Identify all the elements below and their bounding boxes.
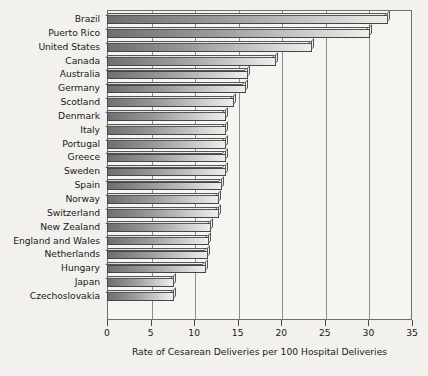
bar — [107, 209, 219, 218]
bar — [107, 140, 226, 149]
x-tick-mark — [281, 320, 282, 326]
bar — [107, 71, 248, 80]
bar-row — [107, 261, 412, 275]
x-tick-mark — [194, 320, 195, 326]
bar-row — [107, 178, 412, 192]
bar — [107, 15, 388, 24]
x-tick-label: 35 — [406, 327, 418, 338]
category-label: Canada — [0, 54, 104, 68]
x-tick-mark — [412, 320, 413, 326]
x-axis-title: Rate of Cesarean Deliveries per 100 Hosp… — [107, 346, 412, 357]
bar-row — [107, 40, 412, 54]
bar — [107, 182, 222, 191]
category-label: Switzerland — [0, 206, 104, 220]
x-tick-label: 10 — [188, 327, 200, 338]
bar — [107, 43, 312, 52]
bar-row — [107, 81, 412, 95]
x-tick-mark — [325, 320, 326, 326]
category-label: Australia — [0, 67, 104, 81]
x-tick-label: 30 — [363, 327, 375, 338]
x-tick-mark — [368, 320, 369, 326]
bar-row — [107, 137, 412, 151]
category-label: Netherlands — [0, 247, 104, 261]
category-label: Puerto Rico — [0, 26, 104, 40]
bar-row — [107, 275, 412, 289]
bar-row — [107, 192, 412, 206]
x-tick-label: 25 — [319, 327, 331, 338]
bar — [107, 265, 206, 274]
bar — [107, 168, 226, 177]
bar — [107, 112, 226, 121]
category-label: Portugal — [0, 137, 104, 151]
category-label: Italy — [0, 123, 104, 137]
bar-series — [107, 12, 412, 320]
bar — [107, 251, 208, 260]
category-axis-labels: BrazilPuerto RicoUnited StatesCanadaAust… — [0, 12, 104, 303]
category-label: Denmark — [0, 109, 104, 123]
category-label: Greece — [0, 150, 104, 164]
bar-row — [107, 26, 412, 40]
bar-row — [107, 67, 412, 81]
category-label: New Zealand — [0, 220, 104, 234]
bar-row — [107, 234, 412, 248]
x-tick-mark — [107, 320, 108, 326]
x-tick-label: 5 — [148, 327, 154, 338]
bar — [107, 237, 209, 246]
category-label: Sweden — [0, 164, 104, 178]
bar-row — [107, 289, 412, 303]
category-label: Germany — [0, 81, 104, 95]
bar-row — [107, 12, 412, 26]
category-label: Czechoslovakia — [0, 289, 104, 303]
x-tick-mark — [238, 320, 239, 326]
x-tick-mark — [151, 320, 152, 326]
category-label: England and Wales — [0, 234, 104, 248]
chart-figure: BrazilPuerto RicoUnited StatesCanadaAust… — [0, 0, 428, 376]
bar — [107, 126, 226, 135]
bar-row — [107, 109, 412, 123]
bar-row — [107, 206, 412, 220]
category-label: Japan — [0, 275, 104, 289]
x-tick-label: 0 — [104, 327, 110, 338]
bar-row — [107, 95, 412, 109]
bar — [107, 85, 246, 94]
x-tick-label: 15 — [232, 327, 244, 338]
category-label: Scotland — [0, 95, 104, 109]
category-label: United States — [0, 40, 104, 54]
bar — [107, 195, 219, 204]
bar-row — [107, 150, 412, 164]
bar — [107, 98, 234, 107]
bar-row — [107, 220, 412, 234]
bar-row — [107, 123, 412, 137]
bar — [107, 292, 174, 301]
bar — [107, 223, 211, 232]
category-label: Norway — [0, 192, 104, 206]
bar-row — [107, 54, 412, 68]
bar — [107, 278, 174, 287]
category-label: Hungary — [0, 261, 104, 275]
x-axis: 05101520253035 — [107, 320, 412, 340]
category-label: Brazil — [0, 12, 104, 26]
category-label: Spain — [0, 178, 104, 192]
bar-row — [107, 247, 412, 261]
bar — [107, 154, 226, 163]
bar-row — [107, 164, 412, 178]
x-tick-label: 20 — [275, 327, 287, 338]
bar — [107, 57, 276, 66]
bar — [107, 29, 370, 38]
